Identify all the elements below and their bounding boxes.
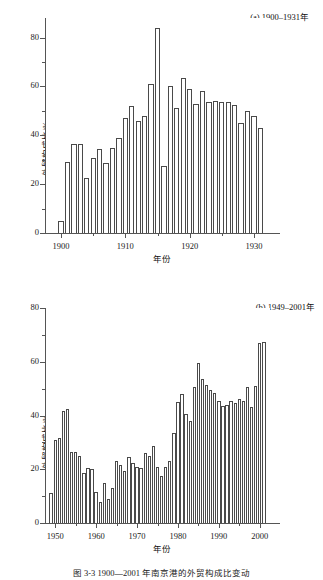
panel-b-x-tick-major [96, 523, 97, 528]
bar [193, 104, 198, 233]
panel-a-x-tick-label: 1910 [111, 241, 139, 251]
panel-a-y-axis-line [45, 18, 46, 233]
panel-b-y-tick-major [40, 469, 46, 470]
panel-a-x-tick-major [190, 233, 191, 238]
panel-a-x-tick-major [61, 233, 62, 238]
bar [232, 105, 237, 233]
panel-b-x-tick-label: 2000 [246, 531, 274, 541]
bar [70, 452, 73, 523]
figure-container: (a) 1900–1931年 外贸构成比/% 年份 02040608019001… [0, 0, 323, 580]
bar [65, 162, 70, 233]
bar [245, 111, 250, 233]
bar [184, 414, 187, 523]
bar [160, 476, 163, 523]
chart-panel-b: (b) 1949–2001年 外贸构成比/% 年份 02040608019501… [0, 288, 323, 580]
bar [74, 452, 77, 523]
panel-a-y-tick-major [40, 38, 46, 39]
panel-a-x-tick-label: 1920 [176, 241, 204, 251]
bar [131, 463, 134, 523]
panel-b-x-tick-label: 1960 [82, 531, 110, 541]
bar [174, 108, 179, 233]
bar [58, 438, 61, 523]
bar [250, 407, 253, 523]
panel-a-x-tick-major [254, 233, 255, 238]
panel-b-x-tick-label: 1990 [205, 531, 233, 541]
bar [172, 433, 175, 523]
bar [129, 106, 134, 233]
bar [219, 102, 224, 233]
bar [189, 421, 192, 523]
panel-a-x-axis-label: 年份 [0, 252, 323, 264]
panel-a-y-tick-label: 60 [17, 80, 39, 90]
bar [168, 86, 173, 233]
bar [136, 121, 141, 233]
panel-b-plot-area [45, 308, 270, 523]
bar [246, 387, 249, 523]
panel-b-y-tick-major [40, 362, 46, 363]
bar [262, 342, 265, 523]
panel-b-x-tick-minor [239, 523, 240, 526]
panel-a-x-tick-label: 1930 [240, 241, 268, 251]
panel-b-y-tick-minor [42, 389, 46, 390]
panel-a-y-tick-label: 40 [17, 129, 39, 139]
bar [209, 390, 212, 523]
bar [71, 144, 76, 233]
panel-a-y-tick-minor [42, 209, 46, 210]
bar [161, 166, 166, 233]
bar [242, 401, 245, 523]
bar [107, 499, 110, 523]
bar [197, 363, 200, 523]
panel-a-x-tick-major [125, 233, 126, 238]
panel-a-y-tick-label: 80 [17, 32, 39, 42]
figure-caption: 图 3-3 1900—2001 年南京港的外贸构成比变动 [0, 566, 323, 578]
bar [217, 401, 220, 523]
bar [221, 406, 224, 523]
panel-b-y-tick-label: 0 [17, 517, 39, 527]
panel-b-x-tick-label: 1980 [164, 531, 192, 541]
bar [90, 469, 93, 523]
bar [200, 91, 205, 233]
bar [123, 471, 126, 523]
panel-b-x-tick-major [219, 523, 220, 528]
bar [123, 118, 128, 233]
bar [62, 411, 65, 523]
panel-a-y-tick-label: 0 [17, 227, 39, 237]
bar [139, 468, 142, 523]
bar [152, 446, 155, 523]
panel-b-x-axis-label: 年份 [0, 542, 323, 554]
bar [213, 393, 216, 523]
bar [54, 440, 57, 523]
bar [225, 405, 228, 523]
panel-a-y-tick-major [40, 233, 46, 234]
bar [213, 101, 218, 233]
bar [135, 467, 138, 523]
panel-a-y-tick-minor [42, 160, 46, 161]
panel-b-y-tick-label: 20 [17, 463, 39, 473]
bar [103, 483, 106, 523]
bar [115, 461, 118, 523]
bar [226, 102, 231, 233]
bar [205, 385, 208, 523]
panel-b-y-tick-label: 80 [17, 302, 39, 312]
panel-b-y-tick-major [40, 523, 46, 524]
bar [168, 461, 171, 523]
bar [91, 158, 96, 233]
bar [206, 102, 211, 233]
panel-b-x-tick-minor [117, 523, 118, 526]
bar [187, 89, 192, 233]
panel-b-y-tick-major [40, 308, 46, 309]
bar [142, 116, 147, 233]
bar [148, 456, 151, 523]
panel-b-x-tick-minor [198, 523, 199, 526]
bar [180, 394, 183, 523]
panel-b-x-tick-label: 1950 [41, 531, 69, 541]
panel-a-x-tick-label: 1900 [47, 241, 75, 251]
panel-a-plot-area [45, 18, 270, 233]
panel-a-y-tick-major [40, 184, 46, 185]
panel-a-bar-series [45, 18, 270, 233]
panel-a-x-tick-minor [158, 233, 159, 236]
panel-a-y-tick-minor [42, 62, 46, 63]
panel-b-x-tick-major [260, 523, 261, 528]
panel-a-x-tick-minor [222, 233, 223, 236]
bar [66, 409, 69, 523]
